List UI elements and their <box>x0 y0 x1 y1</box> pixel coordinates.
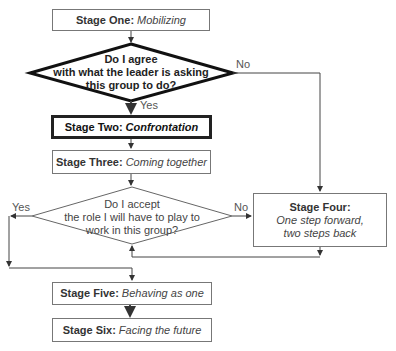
stage-two-box: Stage Two: Confrontation <box>51 115 212 139</box>
stage-three-box: Stage Three: Coming together <box>52 150 211 174</box>
decision-accept-line2: the role I will have to play to <box>52 211 212 224</box>
decision-accept-yes-label: Yes <box>12 201 30 213</box>
decision-accept-text: Do I accept the role I will have to play… <box>52 198 212 237</box>
decision-agree-yes-label: Yes <box>140 99 158 111</box>
decision-accept-line3: work in this group? <box>52 224 212 237</box>
stage-four-box: Stage Four: One step forward, two steps … <box>253 193 387 247</box>
decision-accept-line1: Do I accept <box>52 198 212 211</box>
stage-four-subtitle-line1: One step forward, <box>276 214 363 227</box>
stage-four-subtitle-line2: two steps back <box>284 227 357 240</box>
stage-three-title: Stage Three: <box>56 156 123 169</box>
stage-five-title: Stage Five: <box>60 287 119 300</box>
decision-accept-no-label: No <box>234 201 248 213</box>
stage-one-subtitle: Mobilizing <box>137 14 186 27</box>
stage-five-subtitle: Behaving as one <box>122 287 204 300</box>
stage-one-title: Stage One: <box>76 14 134 27</box>
decision-agree-text: Do I agree with what the leader is askin… <box>40 53 222 92</box>
stage-two-subtitle: Confrontation <box>126 121 199 134</box>
stage-four-title: Stage Four: <box>289 201 350 214</box>
stage-six-box: Stage Six: Facing the future <box>52 318 212 342</box>
stage-one-box: Stage One: Mobilizing <box>52 9 210 31</box>
stage-three-subtitle: Coming together <box>126 156 207 169</box>
stage-six-subtitle: Facing the future <box>119 324 202 337</box>
stage-six-title: Stage Six: <box>63 324 116 337</box>
decision-agree-line3: this group to do? <box>40 79 222 92</box>
decision-agree-line1: Do I agree <box>40 53 222 66</box>
stage-two-title: Stage Two: <box>65 121 123 134</box>
stage-five-box: Stage Five: Behaving as one <box>52 282 212 305</box>
decision-agree-line2: with what the leader is asking <box>40 66 222 79</box>
decision-agree-no-label: No <box>236 58 250 70</box>
